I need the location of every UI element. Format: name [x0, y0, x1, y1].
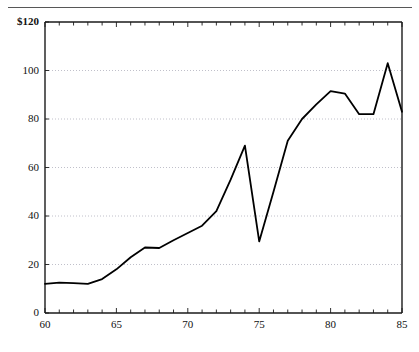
x-axis-tick-label: 80: [311, 319, 351, 330]
x-axis-tick-label: 60: [25, 319, 65, 330]
x-axis-tick-label: 65: [96, 319, 136, 330]
x-axis-tick-label: 75: [239, 319, 279, 330]
x-axis-tick-label: 70: [168, 319, 208, 330]
line-chart-figure: $120100806040200 606570758085: [0, 0, 419, 352]
chart-canvas: [0, 0, 419, 352]
gridlines-group: [46, 71, 401, 265]
y-axis-tick-label: 60: [0, 162, 39, 173]
page-root: $120100806040200 606570758085: [0, 0, 419, 352]
y-axis-tick-label: 40: [0, 210, 39, 221]
y-axis-tick-label: 80: [0, 113, 39, 124]
y-axis-tick-label: 100: [0, 65, 39, 76]
y-axis-tick-label: 20: [0, 259, 39, 270]
y-axis-tick-label: $120: [0, 16, 39, 27]
y-axis-tick-label: 0: [0, 307, 39, 318]
x-axis-tick-label: 85: [382, 319, 419, 330]
data-series-line: [45, 63, 402, 284]
